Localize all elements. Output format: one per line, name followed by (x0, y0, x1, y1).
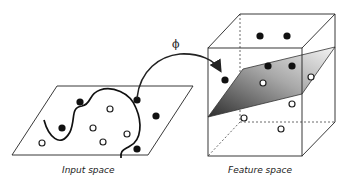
filled-point (264, 62, 271, 69)
open-point (308, 74, 314, 80)
filled-point (288, 62, 295, 69)
input-space (12, 86, 193, 158)
filled-point (58, 124, 65, 131)
open-point (260, 80, 266, 86)
open-point (107, 106, 113, 112)
kernel-diagram: ϕ Input space Feature space (0, 0, 341, 182)
filled-point (76, 98, 83, 105)
feature-space-label: Feature space (228, 165, 292, 175)
filled-point (283, 32, 290, 39)
open-point (90, 125, 96, 131)
filled-point (133, 145, 140, 152)
open-point (100, 139, 106, 145)
open-point (278, 126, 284, 132)
open-point (124, 131, 130, 137)
filled-point (256, 32, 263, 39)
feature-space (208, 14, 335, 156)
cube-top-edges (208, 14, 335, 48)
open-point (289, 101, 295, 107)
phi-label: ϕ (172, 38, 180, 51)
filled-point (152, 112, 159, 119)
input-space-label: Input space (62, 165, 115, 175)
open-point (39, 140, 45, 146)
hidden-edge (208, 122, 240, 156)
cube-bottom-right-edge (302, 122, 335, 156)
open-point (241, 115, 247, 121)
filled-point (221, 76, 228, 83)
